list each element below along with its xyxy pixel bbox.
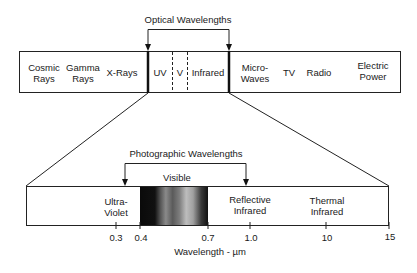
tick-label-0.7: 0.7 [201,232,214,243]
segment-uv: UV [153,67,166,78]
visible-label: Visible [163,172,191,183]
segment-gamma-rays: Gamma Rays [66,62,100,84]
tick-label-0.4: 0.4 [134,232,147,243]
segment-tv: TV [283,67,295,78]
segment-electric-power: Electric Power [357,60,388,82]
tick-label-1.0: 1.0 [244,232,257,243]
photographic-wavelengths-label: Photographic Wavelengths [129,148,242,159]
optical-wavelengths-label: Optical Wavelengths [145,14,232,25]
region-reflective-infrared: Reflective Infrared [229,194,271,216]
segment-v: V [177,67,183,78]
segment-microwaves: Micro- Waves [241,62,270,84]
tick-label-0.3: 0.3 [109,232,122,243]
axis-label: Wavelength - µm [174,246,246,257]
region-ultraviolet: Ultra- Violet [104,196,128,218]
segment-radio: Radio [307,67,332,78]
region-thermal-infrared: Thermal Infrared [310,195,345,217]
tick-label-10: 10 [322,232,333,243]
tick-label-15: 15 [385,231,396,242]
segment-x-rays: X-Rays [106,67,137,78]
segment-infrared: Infrared [192,67,225,78]
segment-cosmic-rays: Cosmic Rays [28,62,60,84]
